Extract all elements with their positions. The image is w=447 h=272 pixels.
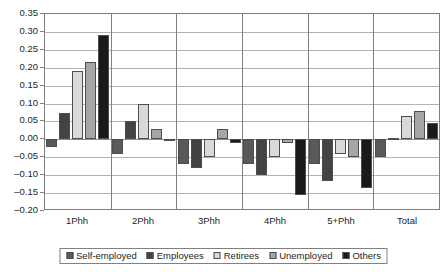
bar-slot <box>375 14 386 209</box>
plot-area <box>44 13 440 210</box>
bar-slot <box>59 14 70 209</box>
bar-slot <box>204 14 215 209</box>
bar <box>361 139 372 187</box>
legend-swatch-icon <box>342 252 349 259</box>
bar-group <box>45 14 111 209</box>
bar <box>112 139 123 153</box>
y-axis-tick-label: 0.10 <box>0 98 38 108</box>
legend-item[interactable]: Retirees <box>214 251 259 261</box>
bar <box>138 104 149 140</box>
bar <box>204 139 215 157</box>
bar <box>98 35 109 139</box>
x-axis-tick-label: 1Phh <box>44 213 110 229</box>
bar <box>282 139 293 143</box>
bar-slot <box>72 14 83 209</box>
bar-slot <box>138 14 149 209</box>
bar <box>164 139 175 141</box>
legend-item[interactable]: Unemployed <box>269 251 332 261</box>
bar <box>217 129 228 140</box>
bar-chart: 0.350.300.250.200.150.100.050.00–0.05–0.… <box>0 0 447 272</box>
y-axis-tick-label: 0.20 <box>0 62 38 72</box>
bar-slot <box>414 14 425 209</box>
bar <box>269 139 280 157</box>
bar <box>191 139 202 168</box>
bar <box>295 139 306 195</box>
bar-slot <box>427 14 438 209</box>
legend-swatch-icon <box>147 252 154 259</box>
x-axis: 1Phh2Phh3Phh4Phh5+PhhTotal <box>44 213 440 229</box>
bar-slot <box>361 14 372 209</box>
x-axis-tick-label: Total <box>374 213 440 229</box>
legend-swatch-icon <box>66 252 73 259</box>
y-axis-tick-label: –0.15 <box>0 187 38 197</box>
legend-item[interactable]: Self-employed <box>66 251 137 261</box>
bar <box>414 111 425 140</box>
y-axis-tick-label: 0.00 <box>0 134 38 144</box>
bar-slot <box>217 14 228 209</box>
bar-slot <box>269 14 280 209</box>
x-axis-tick-label: 5+Phh <box>308 213 374 229</box>
legend: Self-employedEmployeesRetireesUnemployed… <box>59 248 388 264</box>
bar-slot <box>282 14 293 209</box>
bar-group <box>308 14 374 209</box>
bar <box>46 139 57 146</box>
bar <box>335 139 346 153</box>
bar-slot <box>256 14 267 209</box>
y-axis-tick-label: 0.15 <box>0 80 38 90</box>
y-axis-tick-label: 0.30 <box>0 26 38 36</box>
y-axis-tick-mark <box>40 210 44 211</box>
bar-slot <box>322 14 333 209</box>
bar <box>243 139 254 164</box>
bar <box>125 121 136 139</box>
legend-label: Employees <box>157 251 204 261</box>
bar <box>427 123 438 139</box>
bar-group <box>176 14 242 209</box>
legend-swatch-icon <box>269 252 276 259</box>
legend-swatch-icon <box>214 252 221 259</box>
bar-slot <box>98 14 109 209</box>
bar-slot <box>46 14 57 209</box>
x-axis-tick-label: 3Phh <box>176 213 242 229</box>
bar-slot <box>125 14 136 209</box>
y-axis-tick-label: 0.05 <box>0 116 38 126</box>
bar-slot <box>309 14 320 209</box>
bar <box>388 138 399 140</box>
legend-item[interactable]: Others <box>342 251 381 261</box>
bar-slot <box>85 14 96 209</box>
y-axis-tick-label: –0.20 <box>0 205 38 215</box>
legend-label: Unemployed <box>279 251 332 261</box>
bar-group <box>373 14 439 209</box>
bar-group <box>111 14 177 209</box>
x-axis-tick-label: 4Phh <box>242 213 308 229</box>
bar <box>322 139 333 180</box>
bar-slot <box>401 14 412 209</box>
bar-slot <box>388 14 399 209</box>
bar <box>72 71 83 139</box>
bar <box>230 139 241 143</box>
legend-label: Others <box>352 251 381 261</box>
bar-group <box>242 14 308 209</box>
bar-slot <box>335 14 346 209</box>
bar <box>348 139 359 157</box>
bar-slot <box>191 14 202 209</box>
bar-groups <box>45 14 439 209</box>
bar-slot <box>164 14 175 209</box>
y-axis-tick-label: –0.10 <box>0 169 38 179</box>
bar-slot <box>295 14 306 209</box>
legend-label: Self-employed <box>76 251 137 261</box>
legend-item[interactable]: Employees <box>147 251 204 261</box>
bar-slot <box>112 14 123 209</box>
bar-slot <box>230 14 241 209</box>
bar-slot <box>178 14 189 209</box>
bar <box>178 139 189 164</box>
x-axis-tick-label: 2Phh <box>110 213 176 229</box>
bar <box>151 129 162 140</box>
bar <box>256 139 267 175</box>
bar-slot <box>348 14 359 209</box>
legend-label: Retirees <box>224 251 259 261</box>
y-axis-tick-label: –0.05 <box>0 152 38 162</box>
bar <box>375 139 386 157</box>
bar <box>85 62 96 139</box>
bar-slot <box>151 14 162 209</box>
bar-slot <box>243 14 254 209</box>
